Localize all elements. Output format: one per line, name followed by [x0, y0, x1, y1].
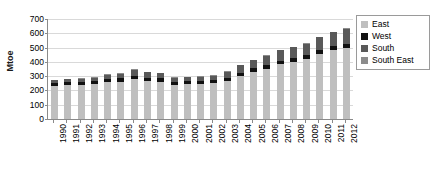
bar-segment-east[interactable] [237, 76, 244, 119]
bar-segment-south[interactable] [263, 56, 270, 65]
bar-segment-east[interactable] [131, 79, 138, 119]
bar-segment-east[interactable] [290, 62, 297, 119]
bar-column[interactable] [247, 19, 260, 119]
x-axis-tick-labels: 1990199119921993199419951996199719981999… [47, 124, 352, 180]
bar-column[interactable] [88, 19, 101, 119]
legend-item[interactable]: West [361, 31, 426, 42]
bar-segment-east[interactable] [104, 82, 111, 119]
bar-column[interactable] [194, 19, 207, 119]
stacked-bar[interactable] [91, 77, 98, 119]
bar-segment-east[interactable] [330, 50, 337, 119]
bar-segment-east[interactable] [343, 48, 350, 119]
bar-segment-east[interactable] [78, 85, 85, 119]
y-axis-tick-label: 0 [18, 115, 44, 123]
bar-segment-south[interactable] [343, 29, 350, 44]
bar-column[interactable] [313, 19, 326, 119]
stacked-bar[interactable] [210, 75, 217, 119]
bar-column[interactable] [220, 19, 233, 119]
x-axis-label-cell: 1998 [153, 124, 166, 180]
bar-segment-east[interactable] [263, 69, 270, 119]
y-axis-tick-label: 300 [18, 72, 44, 80]
stacked-bar[interactable] [104, 74, 111, 119]
bar-segment-south[interactable] [250, 60, 257, 68]
stacked-bar[interactable] [184, 77, 191, 119]
legend-label: East [372, 20, 389, 29]
bar-segment-east[interactable] [184, 84, 191, 119]
bar-segment-east[interactable] [91, 84, 98, 119]
bar-segment-east[interactable] [171, 85, 178, 119]
stacked-bar[interactable] [277, 50, 284, 119]
bar-column[interactable] [340, 19, 353, 119]
stacked-bar[interactable] [78, 78, 85, 119]
stacked-bar[interactable] [250, 60, 257, 119]
stacked-bar[interactable] [316, 37, 323, 119]
bar-column[interactable] [61, 19, 74, 119]
y-axis-tick-label: 200 [18, 86, 44, 94]
bar-column[interactable] [48, 19, 61, 119]
stacked-bar[interactable] [237, 65, 244, 119]
legend-swatch-icon [361, 57, 368, 64]
stacked-bar[interactable] [171, 77, 178, 119]
x-axis-label-cell: 1996 [127, 124, 140, 180]
legend-item[interactable]: South [361, 43, 426, 54]
y-axis-tick-mark [45, 19, 48, 20]
bar-column[interactable] [260, 19, 273, 119]
bar-column[interactable] [114, 19, 127, 119]
legend-swatch-icon [361, 45, 368, 52]
bar-segment-east[interactable] [277, 64, 284, 119]
bar-column[interactable] [101, 19, 114, 119]
bar-segment-east[interactable] [250, 72, 257, 119]
bar-column[interactable] [181, 19, 194, 119]
bar-segment-south[interactable] [277, 50, 284, 60]
plot-area [47, 19, 353, 120]
bar-column[interactable] [287, 19, 300, 119]
bar-segment-east[interactable] [316, 54, 323, 119]
bar-column[interactable] [274, 19, 287, 119]
bar-segment-east[interactable] [224, 81, 231, 119]
stacked-bar[interactable] [197, 76, 204, 119]
x-axis-label-cell: 2004 [233, 124, 246, 180]
stacked-bar[interactable] [144, 72, 151, 119]
stacked-bar[interactable] [343, 28, 350, 119]
bar-column[interactable] [154, 19, 167, 119]
bar-segment-east[interactable] [303, 59, 310, 119]
stacked-bar[interactable] [117, 73, 124, 119]
x-axis-label-cell: 1995 [113, 124, 126, 180]
chart-legend: EastWestSouthSouth East [356, 15, 430, 70]
bar-segment-south[interactable] [237, 65, 244, 72]
bar-segment-east[interactable] [157, 82, 164, 119]
bar-column[interactable] [327, 19, 340, 119]
stacked-bar[interactable] [263, 55, 270, 119]
bar-segment-south[interactable] [290, 47, 297, 58]
legend-item[interactable]: South East [361, 55, 426, 66]
bar-segment-south[interactable] [316, 37, 323, 50]
bar-column[interactable] [300, 19, 313, 119]
stacked-bar[interactable] [51, 80, 58, 119]
stacked-bar[interactable] [330, 32, 337, 119]
bar-segment-east[interactable] [210, 83, 217, 119]
bar-segment-east[interactable] [144, 81, 151, 119]
stacked-bar[interactable] [131, 69, 138, 119]
legend-item[interactable]: East [361, 19, 426, 30]
bar-segment-south[interactable] [303, 44, 310, 56]
x-axis-label-cell: 1997 [140, 124, 153, 180]
stacked-bar[interactable] [157, 73, 164, 119]
y-axis-tick-label: 400 [18, 58, 44, 66]
bar-series-container [48, 19, 353, 119]
bar-column[interactable] [207, 19, 220, 119]
bar-segment-east[interactable] [64, 85, 71, 119]
bar-column[interactable] [234, 19, 247, 119]
bar-column[interactable] [128, 19, 141, 119]
bar-segment-south[interactable] [330, 32, 337, 46]
stacked-bar[interactable] [303, 43, 310, 119]
x-axis-label-cell: 1990 [47, 124, 60, 180]
bar-segment-east[interactable] [51, 86, 58, 119]
stacked-bar[interactable] [290, 47, 297, 119]
bar-segment-east[interactable] [117, 82, 124, 119]
stacked-bar[interactable] [224, 71, 231, 119]
bar-column[interactable] [75, 19, 88, 119]
bar-column[interactable] [141, 19, 154, 119]
bar-column[interactable] [167, 19, 180, 119]
stacked-bar[interactable] [64, 79, 71, 119]
bar-segment-east[interactable] [197, 84, 204, 119]
